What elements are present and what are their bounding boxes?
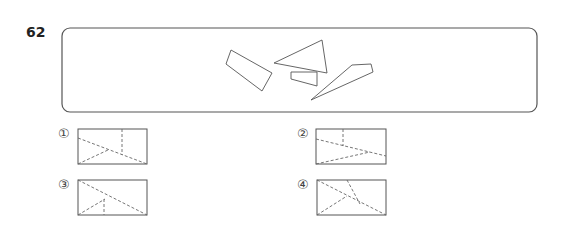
option-3-label[interactable]: ③: [58, 177, 70, 192]
dashed-cut-line: [78, 180, 147, 215]
figure-canvas: [0, 0, 562, 227]
option-rect: [316, 129, 386, 164]
dashed-cut-line: [78, 199, 105, 215]
dashed-cut-line: [316, 152, 370, 164]
dashed-cut-line: [317, 180, 386, 215]
dashed-cut-line: [78, 138, 147, 164]
problem-box: [62, 28, 537, 112]
small-quad-piece: [291, 72, 317, 86]
dashed-cut-line: [316, 139, 386, 156]
option-1-figure[interactable]: [78, 129, 147, 164]
option-2-label[interactable]: ②: [297, 126, 309, 141]
option-2-figure[interactable]: [316, 129, 386, 164]
option-1-label[interactable]: ①: [58, 126, 70, 141]
dashed-cut-line: [78, 150, 108, 164]
dashed-cut-line: [317, 196, 347, 215]
triangle-piece: [274, 40, 327, 73]
quadrilateral-piece: [226, 50, 272, 91]
option-4-label[interactable]: ④: [297, 177, 309, 192]
option-4-figure[interactable]: [317, 180, 386, 215]
option-3-figure[interactable]: [78, 180, 147, 215]
long-kite-piece: [311, 64, 373, 100]
